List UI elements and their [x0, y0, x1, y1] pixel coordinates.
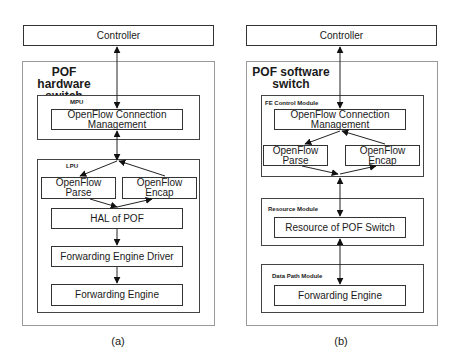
connector-arrows: [0, 0, 458, 363]
a-arrow-parse-hal: [90, 199, 117, 207]
b-arrow-encap-ocm: [342, 131, 385, 144]
b-arrow-ocm-parse: [305, 131, 340, 144]
a-arrow-hal-encap: [117, 199, 152, 207]
a-arrow-from-encap: [119, 161, 165, 176]
a-arrow-to-parse: [80, 161, 117, 176]
b-arrow-join-encap: [340, 166, 376, 174]
b-arrow-parse-join: [302, 166, 338, 174]
